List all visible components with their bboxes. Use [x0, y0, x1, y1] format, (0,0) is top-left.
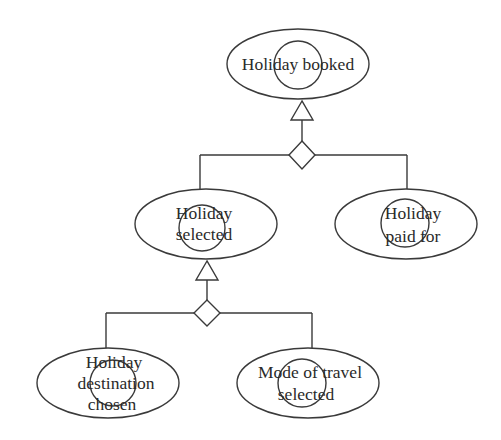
- node-label-line-2: selected: [176, 224, 233, 244]
- node-label-line-3: chosen: [88, 394, 137, 414]
- node-label-line-1: Holiday: [385, 203, 442, 223]
- goal-diagram: Holiday booked Holiday selected Holiday …: [0, 0, 501, 440]
- and-diamond-icon: [194, 300, 220, 326]
- node-holiday-booked: Holiday booked: [227, 29, 369, 99]
- refinement-triangle-icon: [291, 101, 313, 120]
- node-label-line-2: paid for: [386, 226, 441, 246]
- refinement-2: [106, 261, 312, 348]
- refinement-triangle-icon: [196, 261, 218, 280]
- node-label: Holiday booked: [242, 54, 355, 74]
- node-holiday-selected: Holiday selected: [135, 189, 277, 259]
- node-label-line-1: Holiday: [86, 352, 143, 372]
- and-diamond-icon: [289, 141, 315, 169]
- node-mode-of-travel-selected: Mode of travel selected: [237, 348, 379, 418]
- refinement-1: [200, 101, 407, 189]
- node-label-line-2: selected: [278, 384, 335, 404]
- node-label-line-1: Holiday: [176, 203, 233, 223]
- goal-ellipse: [237, 348, 379, 418]
- node-holiday-paid-for: Holiday paid for: [335, 189, 477, 259]
- node-label-line-1: Mode of travel: [258, 362, 362, 382]
- node-label-line-2: destination: [78, 373, 155, 393]
- node-holiday-destination-chosen: Holiday destination chosen: [37, 348, 179, 418]
